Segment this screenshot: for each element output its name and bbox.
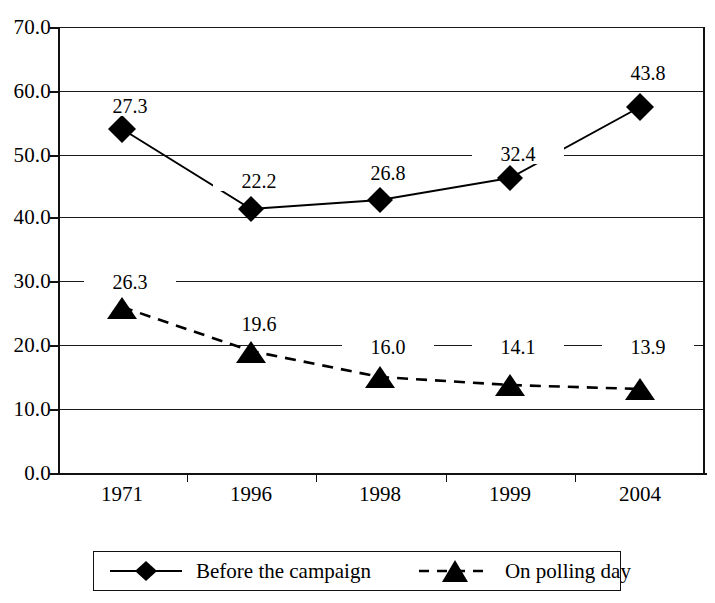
line-chart: 70.0 60.0 50.0 40.0 30.0 20.0 10.0 0.0 1… (0, 0, 715, 603)
data-label-polling-1996: 19.6 (213, 314, 305, 334)
triangle-marker-icon (107, 297, 137, 319)
data-label-polling-2004: 13.9 (602, 337, 694, 357)
chart-legend: Before the campaign On polling day (93, 551, 621, 591)
data-label-before-2004: 43.8 (602, 63, 694, 83)
legend-label-before-the-campaign: Before the campaign (196, 561, 371, 582)
triangle-marker-icon (365, 366, 395, 388)
diamond-marker-icon (135, 561, 157, 581)
series-before-markers (108, 93, 654, 222)
data-label-before-1971: 27.3 (84, 96, 176, 116)
triangle-marker-icon (236, 341, 266, 363)
data-label-before-1998: 26.8 (342, 163, 434, 183)
data-label-before-1996: 22.2 (213, 171, 305, 191)
diamond-marker-icon (367, 187, 393, 213)
legend-swatch-dashed-triangle (417, 558, 493, 584)
data-label-before-1999: 32.4 (472, 144, 564, 164)
diamond-marker-icon (626, 93, 654, 121)
data-label-polling-1999: 14.1 (472, 337, 564, 357)
diamond-marker-icon (238, 196, 264, 222)
legend-key-polling (417, 558, 493, 584)
data-label-polling-1971: 26.3 (84, 272, 176, 292)
legend-label-on-polling-day: On polling day (505, 561, 631, 582)
legend-entry-on-polling-day[interactable]: On polling day (417, 552, 631, 590)
legend-swatch-solid-diamond (108, 558, 184, 584)
series-layer (0, 0, 715, 603)
legend-key-before (108, 558, 184, 584)
data-label-polling-1998: 16.0 (342, 337, 434, 357)
diamond-marker-icon (108, 115, 136, 143)
legend-entry-before-the-campaign[interactable]: Before the campaign (108, 552, 371, 590)
diamond-marker-icon (497, 165, 523, 191)
